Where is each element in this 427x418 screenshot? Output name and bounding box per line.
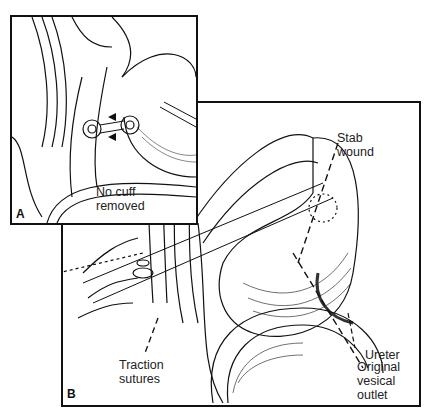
panel-a-letter: A — [16, 207, 25, 221]
label-stab-wound: Stab wound — [337, 131, 374, 159]
panel-a: No cuff removed A — [10, 15, 198, 225]
panel-b-letter: B — [67, 387, 76, 401]
label-original-vesical-outlet: Original vesical outlet — [357, 360, 400, 402]
label-no-cuff-removed: No cuff removed — [96, 185, 145, 213]
label-traction-sutures: Traction sutures — [119, 358, 164, 386]
